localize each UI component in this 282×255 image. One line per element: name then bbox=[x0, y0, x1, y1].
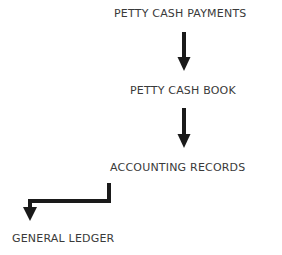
arrow-down-icon bbox=[178, 32, 191, 71]
node-accounting-records: ACCOUNTING RECORDS bbox=[110, 162, 263, 174]
elbow-arrow-icon bbox=[23, 183, 111, 221]
node-general-ledger: GENERAL LEDGER bbox=[12, 233, 119, 245]
arrow-down-icon bbox=[178, 108, 191, 148]
flow-arrows bbox=[0, 0, 282, 255]
node-petty-cash-book: PETTY CASH BOOK bbox=[130, 85, 246, 97]
